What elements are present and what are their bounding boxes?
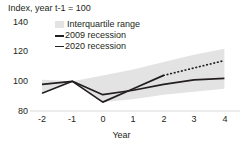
chart-legend: Interquartile range 2009 recession 2020 … [55, 19, 140, 52]
interquartile-range-band [42, 49, 224, 102]
x-tick-label-1: 1 [123, 115, 143, 124]
legend-item-interquartile-range: Interquartile range [55, 19, 140, 30]
x-axis-title: Year [0, 130, 243, 140]
legend-item-2020-recession: 2020 recession [55, 41, 140, 52]
x-tick-label-minus1: -1 [62, 115, 82, 124]
legend-label-2009-recession: 2009 recession [65, 30, 126, 41]
x-tick-label-0: 0 [93, 115, 113, 124]
x-tick-label-4: 4 [215, 115, 235, 124]
chart-container: Index, year t-1 = 100 140 120 100 80 Int… [0, 0, 243, 147]
x-tick-label-3: 3 [184, 115, 204, 124]
legend-label-interquartile-range: Interquartile range [67, 19, 140, 30]
interquartile-band-group [42, 49, 224, 102]
x-tick-label-minus2: -2 [32, 115, 52, 124]
legend-item-2009-recession: 2009 recession [55, 30, 140, 41]
x-tick-label-2: 2 [154, 115, 174, 124]
legend-label-2020-recession: 2020 recession [65, 41, 126, 52]
band-swatch-icon [55, 21, 64, 28]
line-swatch-2009-icon [55, 35, 64, 37]
line-swatch-2020-icon [55, 46, 64, 47]
